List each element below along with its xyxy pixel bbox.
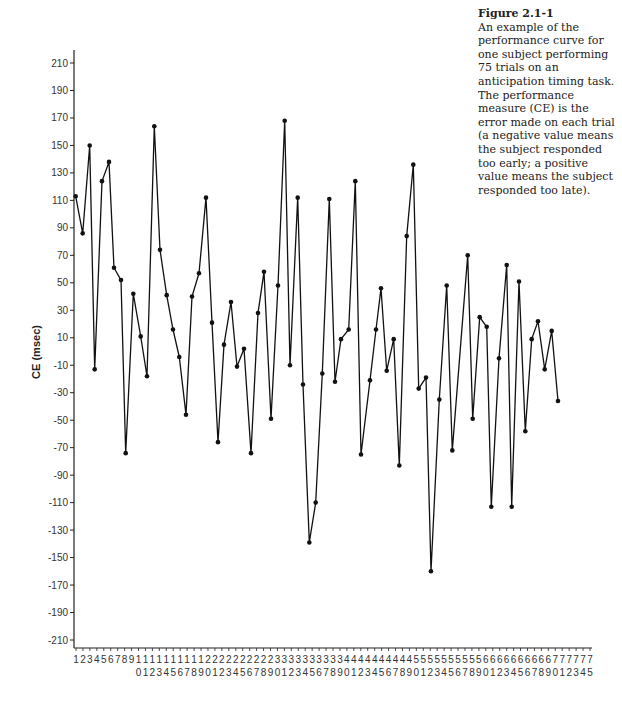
x-tick-label: 3 — [330, 654, 336, 665]
x-tick-label-second-digit: 1 — [282, 667, 288, 678]
x-tick-label: 4 — [400, 654, 406, 665]
data-point-marker — [339, 337, 344, 342]
x-tick-label-second-digit: 3 — [295, 667, 301, 678]
x-tick-label-second-digit: 5 — [240, 667, 246, 678]
x-tick-label: 1 — [198, 654, 204, 665]
x-tick-label: 2 — [80, 654, 86, 665]
x-tick-label-second-digit: 9 — [268, 667, 274, 678]
x-tick-label-second-digit: 4 — [372, 667, 378, 678]
data-point-marker — [549, 329, 554, 334]
x-tick-label-second-digit: 0 — [552, 667, 558, 678]
x-tick-label-second-digit: 9 — [337, 667, 343, 678]
x-tick-label-second-digit: 5 — [309, 667, 315, 678]
data-point-marker — [379, 286, 384, 291]
x-tick-label: 4 — [365, 654, 371, 665]
x-tick-label: 8 — [122, 654, 128, 665]
x-tick-label: 6 — [511, 654, 517, 665]
data-point-marker — [465, 253, 470, 258]
x-tick-label-second-digit: 4 — [164, 667, 170, 678]
data-point-marker — [504, 263, 509, 268]
data-point-marker — [131, 292, 136, 297]
x-tick-label-second-digit: 4 — [302, 667, 308, 678]
data-point-marker — [229, 300, 234, 305]
x-tick-label-second-digit: 1 — [212, 667, 218, 678]
figure-caption: Figure 2.1-1 An example of the performan… — [478, 7, 618, 197]
x-tick-label: 1 — [184, 654, 190, 665]
data-point-marker — [216, 440, 221, 445]
data-point-marker — [269, 417, 274, 422]
x-tick-label-second-digit: 8 — [261, 667, 267, 678]
data-point-marker — [444, 283, 449, 288]
y-tick-label: 30 — [57, 305, 69, 316]
data-point-marker — [249, 451, 254, 456]
x-tick-label-second-digit: 6 — [386, 667, 392, 678]
x-tick-label: 4 — [351, 654, 357, 665]
x-tick-label: 6 — [497, 654, 503, 665]
x-tick-label: 4 — [407, 654, 413, 665]
y-axis-label: CE (msec) — [30, 325, 42, 379]
x-tick-label-second-digit: 3 — [226, 667, 232, 678]
x-tick-label: 2 — [254, 654, 260, 665]
x-tick-label: 4 — [379, 654, 385, 665]
x-tick-label-second-digit: 8 — [539, 667, 545, 678]
x-tick-label: 3 — [87, 654, 93, 665]
x-tick-label: 3 — [289, 654, 295, 665]
x-tick-label: 1 — [164, 654, 170, 665]
x-tick-label: 1 — [177, 654, 183, 665]
x-tick-label-second-digit: 4 — [441, 667, 447, 678]
x-tick-label-second-digit: 2 — [427, 667, 433, 678]
x-tick-label: 3 — [282, 654, 288, 665]
x-tick-label-second-digit: 9 — [198, 667, 204, 678]
x-tick-label-second-digit: 7 — [184, 667, 190, 678]
x-tick-label: 4 — [372, 654, 378, 665]
x-tick-label-second-digit: 0 — [483, 667, 489, 678]
x-tick-label: 6 — [108, 654, 114, 665]
x-tick-label: 4 — [344, 654, 350, 665]
x-tick-label-second-digit: 1 — [351, 667, 357, 678]
y-axis: 2101901701501301109070503010-10-30-50-70… — [48, 50, 74, 648]
x-tick-label: 3 — [275, 654, 281, 665]
x-tick-label-second-digit: 5 — [448, 667, 454, 678]
x-tick-label: 1 — [191, 654, 197, 665]
x-tick-label-second-digit: 3 — [573, 667, 579, 678]
x-tick-label-second-digit: 5 — [518, 667, 524, 678]
x-tick-label: 5 — [421, 654, 427, 665]
x-tick-label: 3 — [302, 654, 308, 665]
x-tick-label-second-digit: 0 — [205, 667, 211, 678]
data-point-marker — [416, 386, 421, 391]
x-tick-label-second-digit: 6 — [455, 667, 461, 678]
x-tick-label: 1 — [150, 654, 156, 665]
x-tick-label: 1 — [136, 654, 142, 665]
x-tick-label: 5 — [427, 654, 433, 665]
x-tick-label-second-digit: 7 — [532, 667, 538, 678]
data-point-marker — [346, 327, 351, 332]
data-point-marker — [333, 379, 338, 384]
x-tick-label: 2 — [233, 654, 239, 665]
data-point-marker — [477, 315, 482, 320]
x-tick-label-second-digit: 7 — [462, 667, 468, 678]
x-tick-label: 1 — [73, 654, 79, 665]
x-tick-label-second-digit: 0 — [275, 667, 281, 678]
y-tick-label: -130 — [48, 525, 68, 536]
y-tick-label: 10 — [57, 332, 69, 343]
x-tick-label: 6 — [525, 654, 531, 665]
data-point-marker — [497, 356, 502, 361]
y-tick-label: -90 — [54, 470, 69, 481]
data-point-marker — [374, 327, 379, 332]
data-point-marker — [177, 355, 182, 360]
x-tick-label: 5 — [441, 654, 447, 665]
y-tick-label: -110 — [49, 497, 69, 508]
x-tick-label: 6 — [504, 654, 510, 665]
data-point-marker — [301, 382, 306, 387]
data-point-marker — [107, 160, 112, 165]
x-tick-label: 6 — [483, 654, 489, 665]
data-point-marker — [164, 293, 169, 298]
y-tick-label: 170 — [51, 112, 68, 123]
data-point-marker — [119, 278, 124, 283]
x-tick-label: 5 — [448, 654, 454, 665]
x-tick-label: 4 — [358, 654, 364, 665]
data-point-marker — [73, 194, 78, 199]
data-point-marker — [536, 319, 541, 324]
y-tick-label: -70 — [54, 442, 69, 453]
data-point-marker — [210, 320, 215, 325]
